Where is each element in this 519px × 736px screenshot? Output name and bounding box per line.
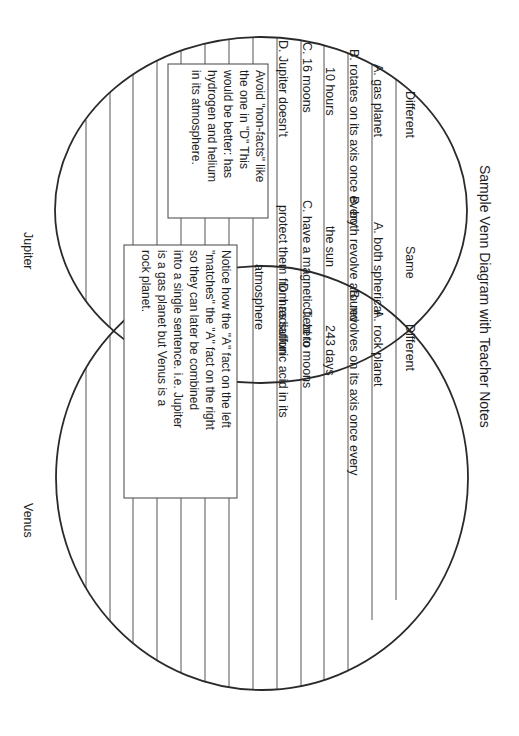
note2-line: "matches" the "A" fact on the right — [203, 250, 217, 430]
jupiter-label: Jupiter — [21, 232, 35, 270]
jupiter-fact-b-cont: 10 hours — [323, 67, 337, 116]
jupiter-fact-d: D. Jupiter doesn't — [276, 40, 290, 137]
venus-fact-a: A. rock planet — [371, 310, 385, 387]
note2-line: so they can later be combined — [187, 250, 201, 410]
venus-fact-c: C. zero moons — [300, 307, 314, 388]
same-fact-a: A. both spherical — [371, 222, 385, 315]
venus-fact-d-cont: atmosphere — [252, 264, 266, 330]
jupiter-fact-a: A. gas planet — [371, 64, 385, 137]
jupiter-fact-c: C. 16 moons — [300, 42, 314, 113]
note1-line: Avoid "non-facts" like — [253, 70, 267, 183]
note1-line: hydrogen and helium — [205, 70, 219, 182]
note1-line: the one in "D" This — [237, 70, 251, 169]
header-same: Same — [403, 246, 417, 279]
venus-fact-b: B. revolves on its axis once every — [347, 290, 361, 476]
note2-line: rock planet. — [139, 250, 153, 312]
header-right-different: Different — [403, 324, 417, 372]
same-fact-b-cont: the sun — [323, 226, 337, 267]
venus-label: Venus — [21, 503, 35, 538]
note1-line: in its atmosphere. — [189, 70, 203, 165]
venn-diagram: Sample Venn Diagram with Teacher Notes D… — [0, 0, 519, 736]
header-left-different: Different — [403, 91, 417, 139]
diagram-title: Sample Venn Diagram with Teacher Notes — [477, 165, 493, 428]
note2-line: into a single sentence. i.e. Jupiter — [171, 250, 185, 428]
note2-line: is a gas planet but Venus is a — [155, 250, 169, 406]
venus-fact-b-cont: 243 days — [323, 325, 337, 376]
venus-fact-d: D. has sulfuric acid in its — [276, 283, 290, 418]
note2-line: Notice how the "A" fact on the left — [219, 250, 233, 429]
note1-line: would be better: has — [221, 69, 235, 178]
